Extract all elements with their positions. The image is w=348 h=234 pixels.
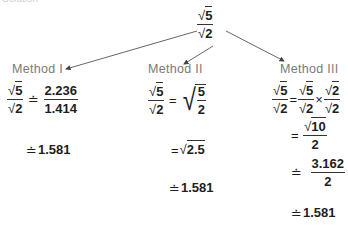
method-2-label: Method II: [148, 62, 203, 76]
method-2-step-1: √5 √2 = √ 5 2: [148, 84, 206, 116]
method-1-label: Method I: [12, 62, 63, 76]
method-3-step-1: √5 √2 = √5 √2 × √2 √2: [272, 84, 340, 115]
method-1-step-2: ≐1.581: [25, 142, 70, 158]
method-3-label: Method III: [280, 62, 339, 76]
method-3-step-3: ≐ 3.162 2: [290, 157, 345, 188]
method-3-step-2: = √10 2: [290, 120, 327, 151]
method-2-step-3: ≐1.581: [168, 180, 213, 196]
method-2-step-2: =√2.5: [170, 142, 205, 158]
arrow-to-method-3: [226, 31, 284, 61]
method-1-step-1: √5 √2 ≐ 2.236 1.414: [7, 84, 78, 115]
method-3-step-4: ≐1.581: [290, 205, 335, 221]
branch-arrows: [0, 0, 348, 234]
top-expression: √5 √2: [197, 9, 213, 40]
